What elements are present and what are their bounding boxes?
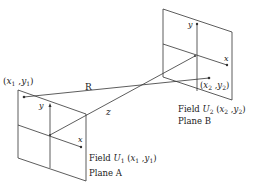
r-label: R [85,82,92,92]
point-label-b: (x2 ,y2) [200,80,229,91]
z-line [50,56,195,135]
plane-b-y-label: y [187,20,193,29]
plane-a-label: Plane A [89,168,123,178]
plane-b-label: Plane B [178,116,211,126]
plane-b-x-arrow-icon [226,64,228,66]
point-label-a: (x1 ,y1) [3,76,34,87]
plane-b-origin [194,55,196,57]
plane-a [18,90,86,181]
point-x2y2 [208,77,211,80]
field-label-b: Field U2 (x2 ,y2) [178,104,246,115]
plane-b-x-label: x [224,54,229,63]
point-x1y1 [23,96,26,99]
plane-b-y-arrow-icon [196,23,198,25]
plane-a-x-axis [18,125,81,147]
diagram-canvas: (x1 ,y1) R z y x y x (x2 ,y2) Field U2 (… [0,0,253,192]
z-label: z [105,107,111,117]
plane-a-origin [49,134,51,136]
field-label-a: Field U1 (x1 ,y1) [89,153,157,164]
plane-a-x-arrow-icon [80,146,82,148]
plane-b-x-axis [163,44,227,65]
r-line [24,78,209,97]
plane-a-y-label: y [38,101,44,110]
plane-a-y-arrow-icon [49,103,52,107]
plane-a-x-label: x [78,135,83,144]
